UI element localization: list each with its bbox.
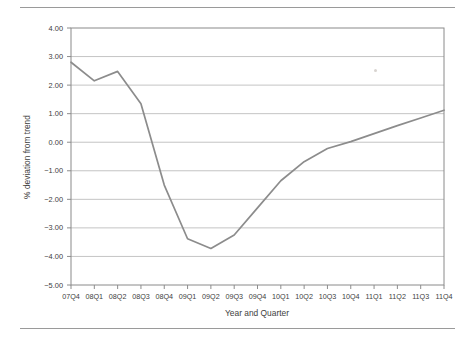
x-axis-tick-label: 11Q4 bbox=[435, 292, 452, 301]
y-axis-tick-labels: 4.003.002.001.000.00−1.00−2.00−3.00−4.00… bbox=[44, 24, 63, 290]
y-axis-tick-label: 3.00 bbox=[49, 52, 63, 61]
x-axis-tick-label: 08Q2 bbox=[109, 292, 127, 301]
y-axis-tick-label: 1.00 bbox=[49, 109, 63, 118]
x-axis-tick-label: 10Q1 bbox=[272, 292, 290, 301]
y-axis-tick-label: −4.00 bbox=[44, 252, 63, 261]
grid-lines bbox=[71, 57, 444, 257]
chart-plot-wrapper: 4.003.002.001.000.00−1.00−2.00−3.00−4.00… bbox=[0, 0, 474, 341]
x-axis-tick-label: 10Q3 bbox=[319, 292, 337, 301]
figure-container: 4.003.002.001.000.00−1.00−2.00−3.00−4.00… bbox=[0, 0, 474, 341]
image-artifact-speck bbox=[374, 69, 377, 72]
x-axis-tick-label: 09Q2 bbox=[202, 292, 220, 301]
data-series-line bbox=[71, 62, 444, 248]
x-axis-tick-label: 09Q3 bbox=[225, 292, 243, 301]
plot-area-border bbox=[71, 28, 444, 285]
y-axis-tick-label: 4.00 bbox=[49, 24, 63, 33]
x-axis-tick-label: 11Q2 bbox=[389, 292, 406, 301]
x-axis-tick-label: 08Q4 bbox=[155, 292, 173, 301]
x-axis-tick-label: 08Q1 bbox=[86, 292, 104, 301]
x-axis-title: Year and Quarter bbox=[225, 308, 289, 318]
y-axis-tick-label: −5.00 bbox=[44, 281, 63, 290]
x-axis-tick-label: 10Q4 bbox=[342, 292, 360, 301]
x-axis-tick-label: 10Q2 bbox=[295, 292, 313, 301]
x-axis-tick-label: 09Q1 bbox=[179, 292, 197, 301]
y-axis-tick-label: −3.00 bbox=[44, 223, 63, 232]
y-axis-tick-label: 2.00 bbox=[49, 81, 63, 90]
x-axis-tick-label: 11Q1 bbox=[366, 292, 383, 301]
x-axis-tick-labels: 07Q408Q108Q208Q308Q409Q109Q209Q309Q410Q1… bbox=[62, 292, 452, 301]
y-axis-tick-label: −2.00 bbox=[44, 195, 63, 204]
y-axis-title: % deviation from trend bbox=[22, 115, 32, 199]
x-axis-ticks bbox=[71, 285, 444, 289]
line-chart: 4.003.002.001.000.00−1.00−2.00−3.00−4.00… bbox=[0, 0, 474, 341]
x-axis-tick-label: 07Q4 bbox=[62, 292, 80, 301]
x-axis-tick-label: 08Q3 bbox=[132, 292, 150, 301]
y-axis-tick-label: −1.00 bbox=[44, 166, 63, 175]
y-axis-tick-label: 0.00 bbox=[49, 138, 63, 147]
x-axis-tick-label: 11Q3 bbox=[412, 292, 429, 301]
x-axis-tick-label: 09Q4 bbox=[249, 292, 267, 301]
y-axis-ticks bbox=[67, 28, 71, 285]
